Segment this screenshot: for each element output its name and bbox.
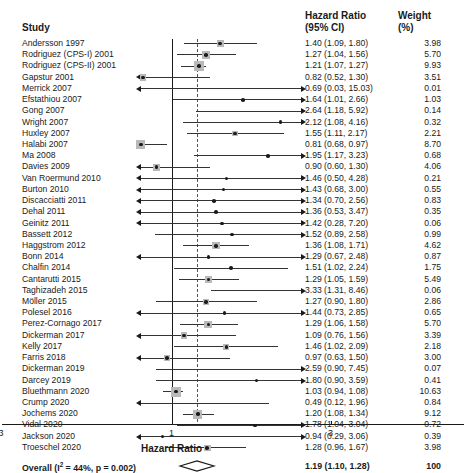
weight-value: 0.06 (393, 218, 441, 229)
hazard-ratio-value: 1.43 (0.68, 3.00) (305, 184, 368, 195)
weight-value: 3.00 (393, 352, 441, 363)
table-row: Perez-Cornago 20171.29 (1.06, 1.58)5.70 (0, 318, 470, 329)
weight-value: 10.63 (393, 386, 441, 397)
hazard-ratio-value: 1.52 (0.89, 2.58) (305, 229, 368, 240)
study-label: Dehal 2011 (22, 206, 144, 217)
weight-value: 0.65 (393, 307, 441, 318)
table-row: Rodriguez (CPS-I) 20011.27 (1.04, 1.56)5… (0, 49, 470, 60)
weight-value: 8.70 (393, 139, 441, 150)
table-row: Jochems 20201.20 (1.08, 1.34)9.12 (0, 408, 470, 419)
table-row: Halabi 20070.81 (0.68, 0.97)8.70 (0, 139, 470, 150)
hazard-ratio-value: 0.97 (0.63, 1.50) (305, 352, 368, 363)
study-label: Bluethmann 2020 (22, 386, 144, 397)
study-label: Möller 2015 (22, 296, 144, 307)
table-row: Efstathiou 20071.64 (1.01, 2.66)1.03 (0, 94, 470, 105)
hazard-ratio-value: 1.29 (0.67, 2.48) (305, 251, 368, 262)
study-label: Dickerman 2017 (22, 330, 144, 341)
table-row: Cantarutti 20151.29 (1.05, 1.59)5.49 (0, 274, 470, 285)
hazard-ratio-value: 0.94 (0.29, 3.06) (305, 431, 368, 442)
weight-value: 0.68 (393, 150, 441, 161)
hazard-ratio-value: 1.40 (1.09, 1.80) (305, 38, 368, 49)
hazard-ratio-value: 0.90 (0.60, 1.30) (305, 161, 368, 172)
weight-value: 0.35 (393, 206, 441, 217)
weight-value: 1.75 (393, 262, 441, 273)
weight-value: 3.98 (393, 442, 441, 453)
weight-value: 0.21 (393, 173, 441, 184)
weight-value: 0.41 (393, 375, 441, 386)
study-label: Polesel 2016 (22, 307, 144, 318)
hazard-ratio-value: 1.20 (1.08, 1.34) (305, 408, 368, 419)
table-row: Andersson 19971.40 (1.09, 1.80)3.98 (0, 38, 470, 49)
column-header-weight: Weight (398, 10, 431, 22)
study-label: Bassett 2012 (22, 229, 144, 240)
weight-value: 1.03 (393, 94, 441, 105)
hazard-ratio-value: 1.09 (0.76, 1.56) (305, 330, 368, 341)
weight-value: 2.21 (393, 128, 441, 139)
weight-value: 0.32 (393, 117, 441, 128)
overall-label: Overall (I2 = 44%, p = 0.002) (22, 461, 136, 473)
study-label: Wright 2007 (22, 117, 144, 128)
study-label: Darcey 2019 (22, 375, 144, 386)
table-row: Gapstur 20010.82 (0.52, 1.30)3.51 (0, 72, 470, 83)
hazard-ratio-value: 1.36 (1.08, 1.71) (305, 240, 368, 251)
study-label: Jackson 2020 (22, 431, 144, 442)
hazard-ratio-value: 1.51 (1.02, 2.24) (305, 262, 368, 273)
hazard-ratio-value: 1.34 (0.70, 2.56) (305, 195, 368, 206)
hazard-ratio-value: 1.29 (1.06, 1.58) (305, 318, 368, 329)
hazard-ratio-value: 0.82 (0.52, 1.30) (305, 72, 368, 83)
hazard-ratio-value: 3.33 (1.31, 8.46) (305, 285, 368, 296)
weight-value: 9.12 (393, 408, 441, 419)
table-row: Darcey 20191.80 (0.90, 3.59)0.41 (0, 375, 470, 386)
study-label: Burton 2010 (22, 184, 144, 195)
table-row: Taghizadeh 20153.33 (1.31, 8.46)0.06 (0, 285, 470, 296)
table-row: Haggstrom 20121.36 (1.08, 1.71)4.62 (0, 240, 470, 251)
weight-value: 0.83 (393, 195, 441, 206)
overall-label-prefix: Overall (I (22, 462, 60, 472)
study-label: Perez-Cornago 2017 (22, 318, 144, 329)
study-label: Gong 2007 (22, 105, 144, 116)
table-row: Vidal 20201.78 (1.04, 3.04)0.72 (0, 419, 470, 430)
hazard-ratio-value: 1.46 (1.02, 2.09) (305, 341, 368, 352)
weight-value: 0.39 (393, 431, 441, 442)
weight-value: 0.87 (393, 251, 441, 262)
study-label: Haggstrom 2012 (22, 240, 144, 251)
overall-diamond (178, 459, 216, 473)
study-label: Halabi 2007 (22, 139, 144, 150)
study-label: Geinitz 2011 (22, 218, 144, 229)
table-row: Bluethmann 20201.03 (0.94, 1.08)10.63 (0, 386, 470, 397)
table-row: Davies 20090.90 (0.60, 1.30)4.06 (0, 161, 470, 172)
hazard-ratio-value: 1.78 (1.04, 3.04) (305, 419, 368, 430)
weight-value: 0.99 (393, 229, 441, 240)
hazard-ratio-value: 2.12 (1.08, 4.16) (305, 117, 368, 128)
study-label: Chalfin 2014 (22, 262, 144, 273)
table-row: Dehal 20111.36 (0.53, 3.47)0.35 (0, 206, 470, 217)
hazard-ratio-value: 1.80 (0.90, 3.59) (305, 375, 368, 386)
study-label: Efstathiou 2007 (22, 94, 144, 105)
weight-value: 0.84 (393, 397, 441, 408)
hazard-ratio-value: 1.44 (0.73, 2.85) (305, 307, 368, 318)
table-row: Bonn 20141.29 (0.67, 2.48)0.87 (0, 251, 470, 262)
column-header-study: Study (22, 22, 50, 34)
weight-value: 4.62 (393, 240, 441, 251)
weight-value: 2.86 (393, 296, 441, 307)
table-row: Rodriguez (CPS-II) 20011.21 (1.07, 1.27)… (0, 60, 470, 71)
study-label: Taghizadeh 2015 (22, 285, 144, 296)
hazard-ratio-value: 1.95 (1.17, 3.23) (305, 150, 368, 161)
weight-value: 0.06 (393, 285, 441, 296)
study-label: Rodriguez (CPS-II) 2001 (22, 60, 144, 71)
study-label: Davies 2009 (22, 161, 144, 172)
hazard-ratio-value: 1.46 (0.50, 4.28) (305, 173, 368, 184)
table-row: Gong 20072.64 (1.18, 5.92)0.14 (0, 105, 470, 116)
table-row: Möller 20151.27 (0.90, 1.80)2.86 (0, 296, 470, 307)
table-row: Chalfin 20141.51 (1.02, 2.24)1.75 (0, 262, 470, 273)
study-label: Huxley 2007 (22, 128, 144, 139)
study-label: Farris 2018 (22, 352, 144, 363)
weight-value: 5.49 (393, 274, 441, 285)
weight-value: 9.93 (393, 60, 441, 71)
table-row: Geinitz 20111.42 (0.28, 7.20)0.06 (0, 218, 470, 229)
study-label: Ma 2008 (22, 150, 144, 161)
study-label: Vidal 2020 (22, 419, 144, 430)
weight-value: 0.07 (393, 363, 441, 374)
weight-value: 3.98 (393, 38, 441, 49)
study-label: Troeschel 2020 (22, 442, 144, 453)
